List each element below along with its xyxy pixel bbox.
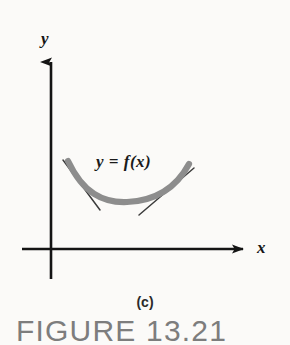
figure-panel-c: y x y = f(x) (c) FIGURE 13.21 <box>0 0 290 345</box>
figure-number-caption: FIGURE 13.21 <box>16 316 227 345</box>
curve-equation-label: y = f(x) <box>96 153 151 170</box>
panel-letter-caption: (c) <box>0 295 290 309</box>
y-axis-label: y <box>41 30 49 47</box>
x-axis-label: x <box>257 239 266 256</box>
